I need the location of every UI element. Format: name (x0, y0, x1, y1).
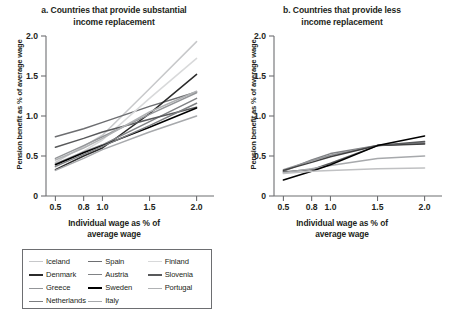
panel-a-y-axis-label: Pension benefit as % of average wage (15, 30, 24, 180)
panel-a-y-ticks: 00.51.01.52.0 (26, 31, 46, 201)
legend-swatch-icon (88, 301, 102, 302)
panel-b-x-axis-label: Individual wage as % of average wage (242, 218, 442, 240)
svg-text:2.0: 2.0 (191, 202, 203, 210)
legend-label: Netherlands (46, 296, 86, 306)
legend-swatch-icon (88, 274, 102, 275)
panel-b-title: b. Countries that provide less income re… (238, 5, 446, 28)
legend-swatch-icon (29, 261, 43, 262)
legend-swatch-icon (29, 274, 43, 276)
panel-a-title-line1: a. Countries that provide substantial (10, 5, 218, 17)
panel-b-title-line2: income replacement (238, 17, 446, 29)
panel-b-xlabel-line1: Individual wage as % of (242, 218, 442, 229)
legend-label: Finland (165, 257, 189, 267)
panel-a-svg: 00.51.01.52.0 0.50.81.01.52.0 (0, 30, 228, 210)
legend-swatch-icon (88, 261, 102, 262)
legend-label: Greece (46, 283, 70, 293)
legend-label: Slovenia (165, 270, 193, 280)
panel-b-xlabel-line2: average wage (242, 229, 442, 240)
legend-swatch-icon (29, 288, 43, 289)
legend-swatch-icon (88, 287, 102, 289)
svg-text:0: 0 (261, 191, 266, 201)
panel-a-xlabel-line2: average wage (14, 229, 214, 240)
panel-b-title-line1: b. Countries that provide less (238, 5, 446, 17)
legend-label: Portugal (165, 283, 192, 293)
panel-b-y-axis-label: Pension benefit as % of average wage (249, 30, 258, 180)
svg-text:0: 0 (33, 191, 38, 201)
legend-item-italy[interactable]: Italy (88, 295, 147, 308)
panel-b-plot-area: Pension benefit as % of average wage 00.… (228, 30, 456, 210)
chart-panel-b: b. Countries that provide less income re… (228, 0, 456, 317)
series-line-italy (55, 116, 196, 170)
legend-item-denmark[interactable]: Denmark (29, 268, 88, 281)
legend-panel-a: IcelandSpainFinlandDenmarkAustriaSloveni… (22, 249, 212, 309)
panel-a-xlabel-line1: Individual wage as % of (14, 218, 214, 229)
svg-text:1.5: 1.5 (144, 202, 156, 210)
legend-item-spain[interactable]: Spain (88, 255, 147, 268)
legend-item-netherlands[interactable]: Netherlands (29, 295, 88, 308)
legend-label: Austria (105, 270, 128, 280)
legend-item-sweden[interactable]: Sweden (88, 282, 147, 295)
svg-text:1.5: 1.5 (26, 71, 38, 81)
legend-label: Spain (105, 257, 124, 267)
panel-b-series-lines (283, 136, 424, 180)
legend-item-finland[interactable]: Finland (148, 255, 207, 268)
svg-text:2.0: 2.0 (26, 31, 38, 41)
panel-a-x-ticks: 0.50.81.01.52.0 (49, 196, 202, 210)
legend-label: Iceland (46, 257, 70, 267)
svg-text:1.0: 1.0 (96, 202, 108, 210)
svg-text:1.5: 1.5 (372, 202, 384, 210)
svg-text:1.0: 1.0 (324, 202, 336, 210)
panel-b-svg: 00.51.01.52.0 0.50.81.01.52.0 (228, 30, 456, 210)
chart-panel-a: a. Countries that provide substantial in… (0, 0, 228, 317)
panel-a-title: a. Countries that provide substantial in… (10, 5, 218, 28)
legend-item-iceland[interactable]: Iceland (29, 255, 88, 268)
legend-item-portugal[interactable]: Portugal (148, 282, 207, 295)
svg-text:0.5: 0.5 (277, 202, 289, 210)
svg-text:1.0: 1.0 (26, 111, 38, 121)
svg-text:0.5: 0.5 (49, 202, 61, 210)
svg-text:0.8: 0.8 (78, 202, 90, 210)
legend-swatch-icon (148, 288, 162, 289)
legend-label: Italy (105, 296, 118, 306)
legend-swatch-icon (148, 261, 162, 262)
panel-b-x-ticks: 0.50.81.01.52.0 (277, 196, 430, 210)
panel-a-plot-area: Pension benefit as % of average wage 00.… (0, 30, 228, 210)
legend-a-items: IcelandSpainFinlandDenmarkAustriaSloveni… (23, 250, 211, 308)
legend-swatch-icon (148, 274, 162, 276)
series-line-germany (283, 136, 424, 180)
legend-item-slovenia[interactable]: Slovenia (148, 268, 207, 281)
svg-text:0.8: 0.8 (306, 202, 318, 210)
panel-a-x-axis-label: Individual wage as % of average wage (14, 218, 214, 240)
panel-a-series-lines (55, 42, 196, 171)
legend-label: Denmark (46, 270, 76, 280)
svg-text:0.5: 0.5 (26, 151, 38, 161)
legend-item-austria[interactable]: Austria (88, 268, 147, 281)
svg-text:2.0: 2.0 (419, 202, 431, 210)
legend-label: Sweden (105, 283, 132, 293)
legend-swatch-icon (29, 301, 43, 302)
legend-item-greece[interactable]: Greece (29, 282, 88, 295)
panel-a-title-line2: income replacement (10, 17, 218, 29)
